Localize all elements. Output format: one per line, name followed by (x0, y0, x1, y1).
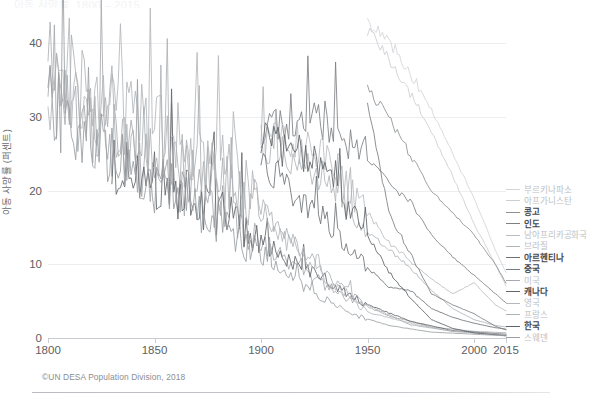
bottom-divider (32, 392, 550, 393)
series-lines (48, 14, 506, 338)
legend-leader-line (506, 200, 520, 201)
legend-leader-line (506, 212, 520, 213)
legend-label: 인도 (524, 219, 540, 229)
legend-leader-line (506, 269, 520, 270)
legend-label: 중국 (524, 264, 540, 274)
legend-item[interactable]: 중국 (506, 264, 540, 275)
x-tick-mark (474, 338, 475, 343)
legend-leader-line (506, 326, 520, 327)
series-line (368, 103, 506, 330)
series-line (48, 8, 506, 335)
series-line (368, 85, 506, 283)
legend-item[interactable]: 아프가니스탄 (506, 195, 571, 206)
legend-item[interactable]: 남아프리카공화국 (506, 230, 587, 241)
legend-leader-line (506, 280, 520, 281)
legend-leader-line (506, 257, 520, 258)
source-note: ©UN DESA Population Division, 2018 (42, 372, 185, 382)
series-line (368, 28, 506, 286)
legend-label: 영국 (524, 298, 540, 308)
legend-leader-line (506, 235, 520, 236)
series-line (48, 0, 506, 336)
legend-item[interactable]: 캐나다 (506, 286, 548, 297)
legend: 부르키나파소아프가니스탄콩고인도남아프리카공화국브라질아르헨티나중국미국캐나다영… (506, 184, 600, 340)
legend-leader-line (506, 337, 520, 338)
legend-label: 브라질 (524, 241, 548, 251)
legend-label: 프랑스 (524, 310, 548, 320)
series-line (261, 87, 506, 327)
legend-label: 한국 (524, 321, 540, 331)
y-tick-label: 10 (29, 258, 42, 270)
legend-leader-line (506, 303, 520, 304)
legend-label: 남아프리카공화국 (524, 230, 587, 240)
plot-area: 010203040 180018501900195020002015 (48, 14, 506, 338)
x-axis-line (48, 338, 506, 339)
legend-item[interactable]: 프랑스 (506, 309, 548, 320)
child-mortality-chart: 아동 사망률, 1800 – 2015 아동 사망률 (퍼센트) 0102030… (0, 0, 600, 399)
legend-leader-line (506, 291, 520, 292)
series-line (261, 154, 506, 330)
legend-leader-line (506, 223, 520, 224)
legend-label: 아프가니스탄 (524, 196, 571, 206)
legend-item[interactable]: 콩고 (506, 207, 540, 218)
x-tick-label: 1950 (355, 344, 381, 356)
page-title: 아동 사망률, 1800 – 2015 (14, 0, 434, 8)
x-tick-mark (48, 338, 49, 343)
legend-item[interactable]: 영국 (506, 298, 540, 309)
legend-item[interactable]: 미국 (506, 275, 540, 286)
y-tick-label: 20 (29, 185, 42, 197)
legend-label: 캐나다 (524, 287, 548, 297)
y-tick-label: 30 (29, 111, 42, 123)
x-tick-label: 2000 (461, 344, 487, 356)
legend-label: 아르헨티나 (524, 253, 564, 263)
legend-leader-line (506, 246, 520, 247)
x-tick-mark (261, 338, 262, 343)
x-tick-label: 1900 (248, 344, 274, 356)
x-tick-label: 1850 (142, 344, 168, 356)
legend-label: 미국 (524, 276, 540, 286)
y-tick-label: 0 (36, 332, 42, 344)
series-line (48, 22, 506, 335)
y-tick-label: 40 (29, 37, 42, 49)
legend-label: 스웨덴 (524, 333, 548, 343)
legend-label: 부르키나파소 (524, 185, 571, 195)
x-tick-mark (368, 338, 369, 343)
legend-leader-line (506, 189, 520, 190)
legend-label: 콩고 (524, 207, 540, 217)
legend-item[interactable]: 아르헨티나 (506, 252, 564, 263)
x-tick-label: 1800 (35, 344, 61, 356)
legend-item[interactable]: 부르키나파소 (506, 184, 571, 195)
legend-item[interactable]: 브라질 (506, 241, 548, 252)
x-tick-mark (155, 338, 156, 343)
legend-leader-line (506, 314, 520, 315)
legend-item[interactable]: 스웨덴 (506, 332, 548, 343)
legend-item[interactable]: 인도 (506, 218, 540, 229)
legend-item[interactable]: 한국 (506, 321, 540, 332)
x-tick-label: 2015 (493, 344, 519, 356)
y-axis-title: 아동 사망률 (퍼센트) (0, 129, 13, 215)
